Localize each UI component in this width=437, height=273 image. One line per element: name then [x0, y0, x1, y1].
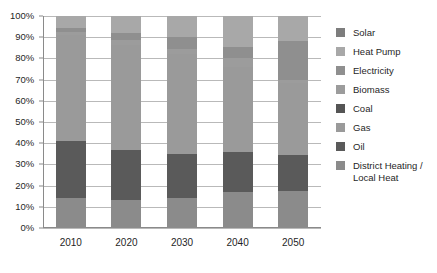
- bar-segment[interactable]: [223, 58, 253, 66]
- legend-swatch-icon: [336, 142, 345, 151]
- bar-segment[interactable]: [56, 32, 86, 35]
- bar-segment[interactable]: [223, 16, 253, 47]
- legend-label: District Heating / Local Heat: [353, 160, 423, 183]
- bar-segment[interactable]: [223, 47, 253, 59]
- bar-column[interactable]: [111, 16, 141, 228]
- bar-column[interactable]: [223, 16, 253, 228]
- bar-segment[interactable]: [167, 49, 197, 54]
- legend-item[interactable]: Biomass: [336, 84, 437, 96]
- bar-segment[interactable]: [278, 41, 308, 79]
- y-tick-label: 60%: [15, 96, 34, 106]
- bar-segment[interactable]: [278, 83, 308, 155]
- bar-segment[interactable]: [278, 191, 308, 228]
- bar-segment[interactable]: [111, 45, 141, 150]
- legend-swatch-icon: [336, 66, 345, 75]
- bar-segment[interactable]: [167, 37, 197, 49]
- legend-label: Oil: [353, 141, 365, 153]
- bar-segment[interactable]: [56, 141, 86, 198]
- x-tick-label: 2030: [171, 238, 193, 248]
- y-tick-label: 50%: [15, 117, 34, 127]
- legend-swatch-icon: [336, 161, 345, 170]
- legend-label: Heat Pump: [353, 46, 401, 58]
- bar-segment[interactable]: [167, 54, 197, 154]
- bar-segment[interactable]: [111, 16, 141, 33]
- bar-column[interactable]: [167, 16, 197, 228]
- legend-swatch-icon: [336, 47, 345, 56]
- legend-label: Biomass: [353, 84, 389, 96]
- bar-segment[interactable]: [56, 16, 86, 28]
- x-tick-label: 2040: [226, 238, 248, 248]
- legend-swatch-icon: [336, 28, 345, 37]
- gridline: [43, 228, 321, 229]
- bar-segment[interactable]: [223, 192, 253, 228]
- y-tick-label: 90%: [15, 32, 34, 42]
- legend-label: Electricity: [353, 65, 394, 77]
- bar-stack: [223, 16, 253, 228]
- bar-segment[interactable]: [167, 154, 197, 199]
- legend-item[interactable]: Coal: [336, 103, 437, 115]
- legend-label: Coal: [353, 103, 373, 115]
- y-tick-label: 40%: [15, 138, 34, 148]
- y-tick-label: 10%: [15, 202, 34, 212]
- legend-label: Gas: [353, 122, 370, 134]
- y-tick-label: 80%: [15, 54, 34, 64]
- bar-segment[interactable]: [278, 16, 308, 41]
- bar-segment[interactable]: [111, 33, 141, 40]
- bar-segment[interactable]: [223, 67, 253, 152]
- bar-segment[interactable]: [167, 198, 197, 228]
- legend-item[interactable]: Solar: [336, 27, 437, 39]
- x-tick-label: 2020: [115, 238, 137, 248]
- bar-segment[interactable]: [223, 152, 253, 192]
- bar-segment[interactable]: [278, 80, 308, 83]
- bar-stack: [111, 16, 141, 228]
- legend-item[interactable]: District Heating / Local Heat: [336, 160, 437, 183]
- y-tick-label: 70%: [15, 75, 34, 85]
- bar-stack: [167, 16, 197, 228]
- legend: SolarHeat PumpElectricityBiomassCoalGasO…: [336, 27, 437, 191]
- y-tick-label: 100%: [10, 11, 34, 21]
- bar-column[interactable]: [278, 16, 308, 228]
- y-axis: 0%10%20%30%40%50%60%70%80%90%100%: [0, 0, 38, 273]
- y-tick-label: 0%: [20, 223, 34, 233]
- stacked-bar-chart: 0%10%20%30%40%50%60%70%80%90%100% 201020…: [0, 0, 437, 273]
- bar-segment[interactable]: [56, 35, 86, 141]
- bar-segment[interactable]: [111, 150, 141, 201]
- plot-block: 0%10%20%30%40%50%60%70%80%90%100% 201020…: [0, 0, 330, 273]
- legend-swatch-icon: [336, 85, 345, 94]
- legend-label: Solar: [353, 27, 375, 39]
- bar-column[interactable]: [56, 16, 86, 228]
- legend-swatch-icon: [336, 104, 345, 113]
- bar-segment[interactable]: [56, 28, 86, 32]
- legend-item[interactable]: Oil: [336, 141, 437, 153]
- bar-segment[interactable]: [278, 155, 308, 191]
- x-axis: 20102020203020402050: [43, 232, 321, 252]
- legend-swatch-icon: [336, 123, 345, 132]
- bar-stack: [278, 16, 308, 228]
- legend-item[interactable]: Gas: [336, 122, 437, 134]
- bar-segment[interactable]: [56, 198, 86, 228]
- bar-segment[interactable]: [167, 16, 197, 37]
- bar-segment[interactable]: [111, 40, 141, 44]
- y-tick-label: 30%: [15, 160, 34, 170]
- bar-stack: [56, 16, 86, 228]
- bars-layer: [43, 16, 321, 228]
- bar-segment[interactable]: [111, 200, 141, 228]
- legend-item[interactable]: Electricity: [336, 65, 437, 77]
- x-tick-label: 2050: [282, 238, 304, 248]
- x-tick-label: 2010: [60, 238, 82, 248]
- plot-area: [43, 16, 321, 228]
- y-tick-label: 20%: [15, 181, 34, 191]
- legend-item[interactable]: Heat Pump: [336, 46, 437, 58]
